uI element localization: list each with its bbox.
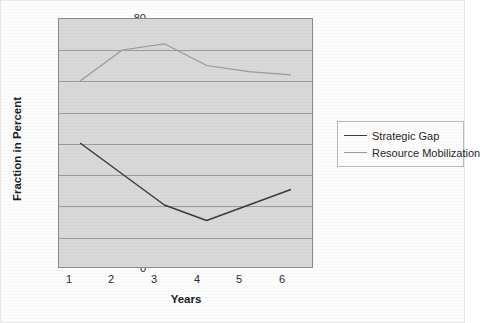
x-tick-label: 2 <box>91 273 131 285</box>
x-tick-label: 1 <box>49 273 89 285</box>
legend-item-resource-mobilization: Resource Mobilization <box>342 144 459 161</box>
line-strategic-gap <box>80 143 291 221</box>
x-tick-label: 5 <box>219 273 259 285</box>
legend-label: Resource Mobilization <box>372 147 480 159</box>
legend-item-strategic-gap: Strategic Gap <box>342 127 459 144</box>
legend-swatch-icon <box>344 152 367 153</box>
legend-swatch-icon <box>344 135 367 136</box>
legend: Strategic Gap Resource Mobilization <box>337 121 464 167</box>
plot-area <box>58 18 313 268</box>
line-resource-mobilization <box>80 44 291 81</box>
legend-label: Strategic Gap <box>372 130 439 142</box>
y-axis-label: Fraction in Percent <box>11 69 23 229</box>
series-lines <box>59 19 312 267</box>
x-tick-label: 4 <box>177 273 217 285</box>
x-tick-label: 6 <box>262 273 302 285</box>
x-axis-label: Years <box>126 293 246 305</box>
x-tick-label: 3 <box>134 273 174 285</box>
